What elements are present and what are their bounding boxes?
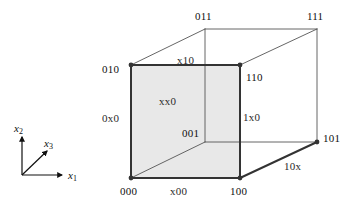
axis-label-subscript-x3: 3 <box>49 142 53 151</box>
vertex-dot-100 <box>238 176 243 181</box>
subcube-label-10x: 10x <box>284 161 301 172</box>
axis-label-x2: x2 <box>14 123 23 137</box>
figure-canvas: 010110000100011111001101 xx00x01x0x10x00… <box>0 0 358 211</box>
vertex-label-111: 111 <box>307 11 323 22</box>
subcube-label-1x0: 1x0 <box>243 112 260 123</box>
vertex-dot-110 <box>238 63 243 68</box>
vertex-label-000: 000 <box>120 186 137 197</box>
subcube-label-0x0: 0x0 <box>102 113 119 124</box>
edge-110-111 <box>240 29 317 65</box>
vertex-dot-010 <box>129 63 134 68</box>
subcube-label-xx0: xx0 <box>159 96 176 107</box>
edge-100-101 <box>240 142 317 178</box>
front-face-polygon-xx0 <box>131 65 240 178</box>
vertex-label-110: 110 <box>246 72 263 83</box>
vertex-label-010: 010 <box>102 64 119 75</box>
front-face-xx0 <box>131 65 240 178</box>
axis-label-x1: x1 <box>68 170 77 184</box>
vertex-dot-101 <box>315 140 320 145</box>
axis-label-subscript-x1: 1 <box>73 174 77 183</box>
subcube-label-x00: x00 <box>170 186 187 197</box>
axis-arrow-x3 <box>22 151 47 175</box>
axis-label-x3: x3 <box>44 138 53 152</box>
vertex-label-001: 001 <box>182 128 199 139</box>
vertex-label-100: 100 <box>230 186 247 197</box>
vertex-label-101: 101 <box>323 133 340 144</box>
cube-diagram-svg <box>0 0 358 211</box>
axis-label-subscript-x2: 2 <box>19 127 23 136</box>
vertex-label-011: 011 <box>195 11 212 22</box>
vertex-dot-000 <box>129 176 134 181</box>
subcube-label-x10: x10 <box>177 55 194 66</box>
axis-indicator <box>22 137 62 175</box>
